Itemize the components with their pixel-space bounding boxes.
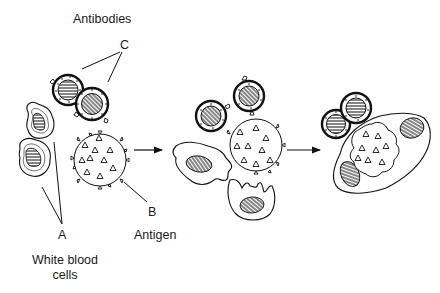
- antigen-particle: [71, 131, 129, 189]
- antibody-cell-6: [341, 93, 371, 123]
- label-c: C: [120, 38, 129, 52]
- label-a: A: [58, 228, 66, 242]
- antibody-cell-4: [234, 76, 264, 115]
- antibody-cell-3: [196, 101, 230, 131]
- label-antigen: Antigen: [134, 228, 176, 242]
- label-white-blood-cells-2: cells: [30, 268, 100, 282]
- label-b: B: [148, 205, 156, 219]
- stage-1: [19, 52, 147, 224]
- antigen-particle-2: [227, 119, 285, 174]
- white-blood-cell-4: [228, 179, 275, 220]
- white-blood-cell-1: [27, 102, 54, 138]
- antibody-cell-2: [74, 88, 108, 123]
- stage-2: [173, 76, 285, 220]
- white-blood-cell-2: [19, 138, 50, 176]
- label-antibodies: Antibodies: [73, 12, 131, 26]
- pointer-c-1: [82, 52, 120, 69]
- stage-3: [322, 93, 430, 193]
- diagram-canvas: Antibodies C B Antigen A White blood cel…: [0, 0, 440, 293]
- diagram-drawing: [0, 0, 440, 293]
- pointer-b: [124, 182, 147, 202]
- white-blood-cell-3: [173, 142, 232, 184]
- label-white-blood-cells-1: White blood: [30, 253, 100, 267]
